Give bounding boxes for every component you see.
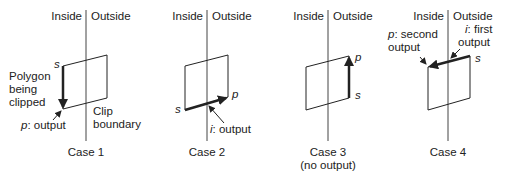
case-4: Inside Outside s p: second output i: fir… [387, 10, 493, 158]
vertex-s-label: s [475, 52, 481, 64]
first-output-text: : first [468, 23, 494, 35]
second-output-line1: p: second [387, 28, 438, 40]
polygon-shape [63, 55, 107, 109]
clip-label-line1: Clip [93, 105, 113, 117]
second-output-line2: output [388, 41, 421, 53]
polygon-label-line1: Polygon [9, 70, 51, 82]
intersection-annotation: i: output [210, 123, 252, 135]
outside-label: Outside [91, 10, 131, 22]
polygon-label-line2: being [9, 83, 37, 95]
outside-label: Outside [453, 10, 493, 22]
vertex-p-label: p [354, 51, 362, 63]
clipping-diagram: Inside Outside s Polygon being clipped p… [0, 0, 510, 174]
polygon-label-line3: clipped [9, 96, 45, 108]
inside-label: Inside [413, 10, 444, 22]
pointer-arrow-i [451, 49, 460, 58]
vertex-s-label: s [355, 89, 361, 101]
clip-label-line2: boundary [93, 118, 141, 130]
case-caption: Case 3 [310, 146, 346, 158]
case-1: Inside Outside s Polygon being clipped p… [9, 10, 141, 158]
first-output-line1: i: first [465, 23, 493, 35]
vertex-p-label: p [231, 88, 239, 100]
first-output-line2: output [458, 36, 491, 48]
outside-label: Outside [333, 10, 373, 22]
pointer-arrow-p [420, 57, 426, 64]
case-caption: Case 1 [68, 146, 104, 158]
vertex-s-label: s [54, 58, 60, 70]
output-annotation: p: output [20, 119, 67, 131]
case-3: Inside Outside s p Case 3 (no output) [293, 10, 372, 171]
case-caption: Case 4 [430, 146, 467, 158]
output-text: : output [27, 119, 66, 131]
vertex-s-label: s [175, 103, 181, 115]
edge-arrow [185, 98, 226, 110]
inside-label: Inside [172, 10, 203, 22]
outside-label: Outside [212, 10, 252, 22]
inside-label: Inside [51, 10, 82, 22]
output-text: : output [213, 123, 252, 135]
second-output-text: : second [394, 28, 437, 40]
case-2: Inside Outside s p i: output Case 2 [172, 10, 251, 158]
pointer-arrow [209, 106, 224, 123]
case-subcaption: (no output) [300, 159, 356, 171]
case-caption: Case 2 [189, 146, 225, 158]
inside-label: Inside [293, 10, 324, 22]
edge-arrow [430, 56, 470, 67]
